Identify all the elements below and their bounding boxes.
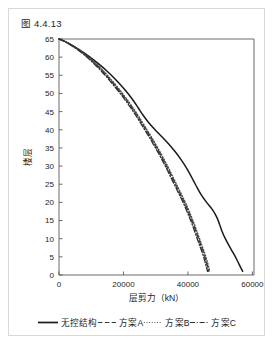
y-tick-label: 0 [50,271,55,280]
y-tick-label: 15 [45,216,54,225]
shear-force-story-chart: 0510152025303540455055606502000040000600… [9,27,264,317]
figure-card: 图 4.4.13 0510152025303540455055606502000… [8,8,265,336]
x-tick-label: 0 [57,280,62,289]
legend-label: 方案C [211,316,236,328]
legend-item-方案A[interactable]: 方案A [97,316,143,328]
legend-item-方案C[interactable]: 方案C [189,316,236,328]
legend-swatch-dotted-icon [143,318,163,327]
y-tick-label: 10 [45,235,54,244]
y-tick-label: 50 [45,89,54,98]
chart-svg: 0510152025303540455055606502000040000600… [9,27,264,317]
series-line-方案B [59,39,210,271]
y-tick-label: 55 [45,71,54,80]
x-axis-title: 层剪力（kN） [129,292,185,303]
x-tick-label: 60000 [241,280,264,289]
series-line-方案A [59,39,209,271]
y-tick-label: 45 [45,108,54,117]
legend-swatch-dashdot-icon [189,318,209,327]
axis-frame [59,39,254,275]
series-line-无控结构 [59,39,243,271]
y-tick-label: 5 [50,253,55,262]
y-tick-label: 20 [45,198,54,207]
series-group [59,39,243,271]
y-tick-label: 40 [45,126,54,135]
y-tick-label: 35 [45,144,54,153]
y-axis-title: 楼层 [22,148,33,166]
legend-item-无控结构[interactable]: 无控结构 [37,316,97,328]
legend-label: 方案B [165,316,189,328]
legend-label: 方案A [119,316,143,328]
x-tick-label: 20000 [112,280,135,289]
series-line-方案C [59,39,208,271]
y-tick-label: 25 [45,180,54,189]
x-tick-label: 40000 [177,280,200,289]
legend-label: 无控结构 [61,316,97,328]
axis-ticks-group: 0510152025303540455055606502000040000600… [45,35,264,289]
y-tick-label: 65 [45,35,54,44]
axis-labels-group: 层剪力（kN）楼层 [22,148,184,303]
legend-swatch-dashed-icon [97,318,117,327]
legend-item-方案B[interactable]: 方案B [143,316,189,328]
legend-swatch-solid-icon [37,318,59,327]
y-tick-label: 30 [45,162,54,171]
chart-legend: 无控结构方案A方案B方案C [9,316,264,328]
y-tick-label: 60 [45,53,54,62]
